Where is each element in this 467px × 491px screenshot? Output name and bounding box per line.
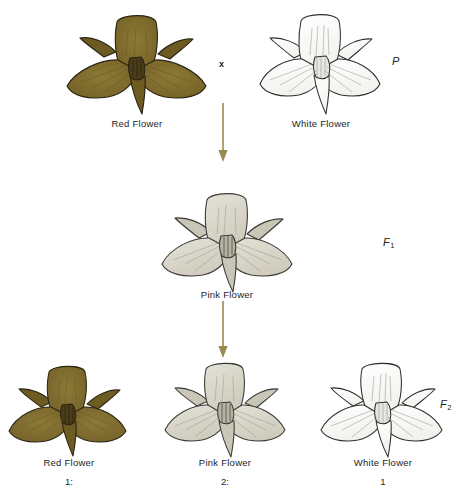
f2-generation-red-flower-illustration bbox=[3, 362, 135, 457]
p-generation-label-text: P bbox=[392, 55, 399, 67]
p-generation-label: P bbox=[392, 55, 399, 67]
f2-generation-pink-flower-illustration bbox=[158, 360, 293, 458]
f2-generation-white-flower-illustration bbox=[316, 360, 449, 458]
caption-p-white-flower: White Flower bbox=[271, 118, 371, 129]
ratio-f2-white: 1 bbox=[333, 476, 433, 487]
f1-generation-pink-flower-illustration bbox=[155, 188, 300, 293]
p-generation-white-flower-illustration bbox=[256, 8, 386, 116]
f1-generation-label: F1 bbox=[383, 236, 394, 248]
p-to-f1-arrow bbox=[216, 103, 230, 163]
caption-p-red-flower: Red Flower bbox=[87, 118, 187, 129]
f2-generation-label-subscript: 2 bbox=[447, 403, 451, 412]
ratio-f2-pink: 2: bbox=[175, 476, 275, 487]
f2-generation-label: F2 bbox=[440, 398, 451, 410]
caption-f2-white-flower: White Flower bbox=[333, 457, 433, 468]
caption-f1-pink-flower: Pink Flower bbox=[177, 289, 277, 300]
f1-generation-label-subscript: 1 bbox=[390, 241, 394, 250]
genetics-cross-diagram: x P Red Flower White Flower bbox=[0, 0, 467, 491]
p-generation-red-flower-illustration bbox=[58, 8, 213, 116]
cross-symbol: x bbox=[219, 59, 224, 69]
f2-generation-label-text: F bbox=[440, 398, 447, 410]
caption-f2-pink-flower: Pink Flower bbox=[175, 457, 275, 468]
f1-generation-label-text: F bbox=[383, 236, 390, 248]
f1-to-f2-arrow bbox=[216, 301, 230, 359]
ratio-f2-red: 1: bbox=[19, 476, 119, 487]
caption-f2-red-flower: Red Flower bbox=[19, 457, 119, 468]
